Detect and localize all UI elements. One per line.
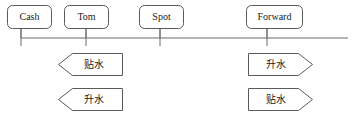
banner-label-left-discount: 贴水 xyxy=(84,58,105,70)
node-label-spot: Spot xyxy=(152,11,171,22)
node-tom[interactable]: Tom xyxy=(65,6,109,29)
node-cash[interactable]: Cash xyxy=(8,6,52,29)
node-label-tom: Tom xyxy=(77,11,95,22)
node-label-forward: Forward xyxy=(258,11,292,22)
banner-left-premium[interactable]: 升水 xyxy=(59,89,123,111)
banner-label-left-premium: 升水 xyxy=(84,94,105,105)
banner-arrows: 贴水升水升水贴水 xyxy=(59,54,313,111)
timeline-diagram: CashTomSpotForward 贴水升水升水贴水 xyxy=(0,0,353,119)
node-label-cash: Cash xyxy=(20,11,40,22)
banner-right-premium[interactable]: 升水 xyxy=(249,54,313,76)
banner-label-right-discount: 贴水 xyxy=(266,93,287,105)
diagram-canvas: CashTomSpotForward 贴水升水升水贴水 xyxy=(0,0,353,119)
banner-label-right-premium: 升水 xyxy=(266,59,287,70)
node-forward[interactable]: Forward xyxy=(247,6,303,29)
node-stems xyxy=(21,28,267,38)
node-spot[interactable]: Spot xyxy=(140,6,184,29)
banner-left-discount[interactable]: 贴水 xyxy=(59,54,123,76)
banner-right-discount[interactable]: 贴水 xyxy=(249,89,313,111)
timeline-nodes: CashTomSpotForward xyxy=(8,6,303,29)
